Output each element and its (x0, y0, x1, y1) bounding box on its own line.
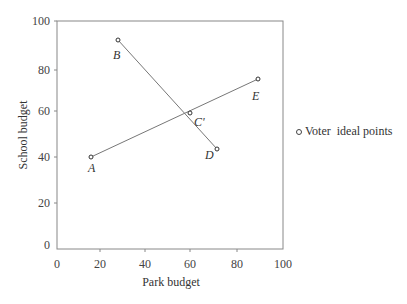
plot-frame (57, 21, 283, 249)
point-e (256, 77, 260, 81)
scatter-plot: 100 80 60 40 20 0 0 20 40 60 80 100 Park… (0, 0, 407, 304)
x-tick-40: 40 (139, 257, 151, 271)
x-tick-20: 20 (94, 257, 106, 271)
x-tick-60: 60 (184, 257, 196, 271)
point-c-prime (188, 111, 192, 115)
circle-marker-icon (296, 129, 302, 135)
label-d: D (204, 148, 214, 162)
y-tick-100: 100 (32, 14, 50, 28)
legend-label: Voter ideal points (305, 124, 392, 139)
x-axis: 0 20 40 60 80 100 (54, 249, 292, 271)
y-tick-40: 40 (38, 150, 50, 164)
segment-a-e (91, 79, 258, 157)
point-b (116, 38, 120, 42)
x-axis-title: Park budget (142, 275, 200, 289)
y-axis-title: School budget (16, 100, 30, 170)
y-tick-0: 0 (44, 238, 50, 252)
y-tick-60: 60 (38, 104, 50, 118)
point-a (89, 155, 93, 159)
label-b: B (113, 48, 121, 62)
point-d (215, 147, 219, 151)
x-tick-100: 100 (274, 257, 292, 271)
y-tick-80: 80 (38, 63, 50, 77)
x-tick-80: 80 (231, 257, 243, 271)
label-e: E (251, 89, 260, 103)
label-c-prime: C' (194, 115, 205, 129)
x-tick-0: 0 (54, 257, 60, 271)
y-tick-20: 20 (38, 196, 50, 210)
label-a: A (87, 161, 96, 175)
y-axis: 100 80 60 40 20 0 (32, 14, 57, 252)
legend: Voter ideal points (296, 124, 392, 139)
segment-b-d (118, 40, 217, 149)
